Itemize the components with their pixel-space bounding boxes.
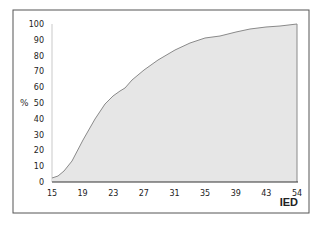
x-tick-label: 27 bbox=[139, 189, 149, 198]
area-chart: 0102030405060708090100 15192327313539435… bbox=[0, 0, 315, 231]
chart-container: 0102030405060708090100 15192327313539435… bbox=[13, 10, 308, 112]
x-tick-label: 19 bbox=[78, 189, 88, 198]
x-tick-label: 23 bbox=[108, 189, 118, 198]
y-tick-label: 30 bbox=[34, 131, 44, 140]
y-tick-label: 70 bbox=[34, 67, 44, 76]
y-tick-label: 50 bbox=[34, 99, 44, 108]
y-tick-label: 0 bbox=[39, 178, 44, 187]
y-tick-label: 10 bbox=[34, 162, 44, 171]
y-tick-label: 80 bbox=[34, 52, 44, 61]
y-tick-label: 40 bbox=[34, 115, 44, 124]
y-tick-label: 60 bbox=[34, 83, 44, 92]
y-tick-label: 100 bbox=[29, 20, 44, 29]
y-tick-label: 90 bbox=[34, 36, 44, 45]
area-fill bbox=[52, 24, 297, 182]
x-tick-labels: 151923273135394354 bbox=[47, 189, 302, 198]
x-tick-label: 39 bbox=[231, 189, 241, 198]
y-axis-title: % bbox=[20, 98, 29, 108]
x-axis-title: IED bbox=[280, 196, 298, 208]
x-tick-label: 43 bbox=[261, 189, 271, 198]
y-tick-label: 20 bbox=[34, 146, 44, 155]
x-tick-label: 15 bbox=[47, 189, 57, 198]
x-tick-label: 31 bbox=[169, 189, 179, 198]
x-tick-label: 35 bbox=[200, 189, 210, 198]
y-tick-labels: 0102030405060708090100 bbox=[29, 20, 44, 187]
